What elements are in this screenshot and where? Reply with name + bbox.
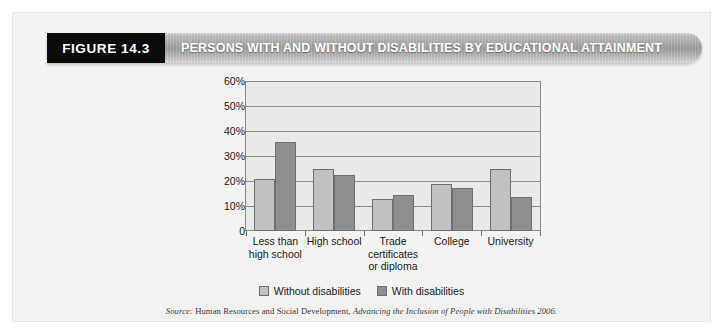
y-tick-label: 30% xyxy=(185,150,245,162)
source-note: Source: Human Resources and Social Devel… xyxy=(13,306,710,316)
legend-item: With disabilities xyxy=(377,285,464,297)
x-axis-labels: Less thanhigh schoolHigh schoolTradecert… xyxy=(246,235,540,273)
bar xyxy=(254,179,275,231)
bar-group xyxy=(372,82,414,231)
x-axis-label: Tradecertificatesor diploma xyxy=(364,235,423,273)
chart-legend: Without disabilitiesWith disabilities xyxy=(13,285,710,297)
bar xyxy=(334,175,355,231)
bar-group xyxy=(431,82,473,231)
bar xyxy=(275,142,296,231)
figure-header-banner: FIGURE 14.3 PERSONS WITH AND WITHOUT DIS… xyxy=(47,33,702,63)
figure-panel: FIGURE 14.3 PERSONS WITH AND WITHOUT DIS… xyxy=(12,12,711,322)
source-publisher: Human Resources and Social Development, xyxy=(195,306,350,316)
y-tick-label: 60% xyxy=(185,75,245,87)
y-tick-label: 20% xyxy=(185,175,245,187)
y-tick-label: 0 xyxy=(185,225,245,237)
y-tick-label: 50% xyxy=(185,100,245,112)
legend-label: Without disabilities xyxy=(274,285,361,297)
bar-groups xyxy=(246,82,540,231)
bar-group xyxy=(313,82,355,231)
x-axis-label: High school xyxy=(305,235,364,273)
bar xyxy=(372,199,393,231)
bar xyxy=(393,195,414,231)
y-tick-label: 40% xyxy=(185,125,245,137)
chart-area: 60% 50% 40% 30% 20% 10% 0 Less thanhigh … xyxy=(199,75,549,243)
x-axis-label: University xyxy=(481,235,540,273)
legend-swatch xyxy=(377,286,387,296)
y-tick-label: 10% xyxy=(185,200,245,212)
bar xyxy=(490,169,511,231)
tickmark xyxy=(540,231,541,236)
legend-item: Without disabilities xyxy=(259,285,361,297)
x-axis-label: Less thanhigh school xyxy=(246,235,305,273)
figure-number-tag: FIGURE 14.3 xyxy=(47,33,165,63)
bar xyxy=(431,184,452,231)
source-label: Source: xyxy=(166,306,193,316)
source-work: Advancing the Inclusion of People with D… xyxy=(353,306,557,316)
bar-group xyxy=(490,82,532,231)
x-axis-label: College xyxy=(422,235,481,273)
legend-label: With disabilities xyxy=(392,285,464,297)
legend-swatch xyxy=(259,286,269,296)
figure-page: FIGURE 14.3 PERSONS WITH AND WITHOUT DIS… xyxy=(0,0,721,332)
bar-group xyxy=(254,82,296,231)
bar xyxy=(452,188,473,231)
figure-title: PERSONS WITH AND WITHOUT DISABILITIES BY… xyxy=(181,33,662,63)
bar xyxy=(511,197,532,231)
bar xyxy=(313,169,334,231)
